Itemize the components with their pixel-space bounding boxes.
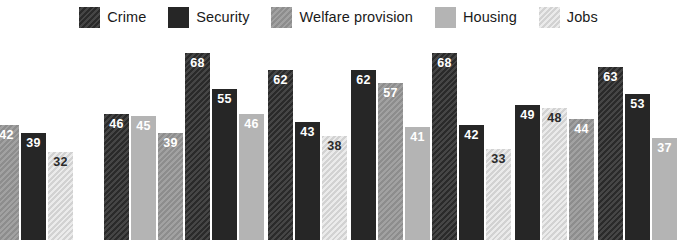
welfare-swatch [271, 7, 292, 28]
legend-label: Welfare provision [299, 9, 412, 25]
bar-group: 685546 [185, 34, 264, 240]
legend-item-jobs[interactable]: Jobs [539, 7, 598, 28]
bar[interactable]: 57 [378, 83, 403, 240]
crime-swatch [79, 7, 100, 28]
bar-group: 464539 [104, 34, 183, 240]
bar[interactable]: 63 [598, 67, 623, 240]
bar[interactable]: 42 [0, 125, 19, 240]
bar[interactable]: 48 [542, 108, 567, 240]
bar[interactable]: 33 [486, 149, 511, 240]
bar[interactable]: 42 [459, 125, 484, 240]
bar-value-label: 39 [158, 136, 183, 150]
bar-value-label: 49 [515, 108, 540, 122]
security-swatch [168, 7, 189, 28]
bar[interactable]: 37 [652, 138, 677, 240]
bar[interactable]: 41 [405, 127, 430, 240]
bar-value-label: 63 [598, 70, 623, 84]
legend-item-security[interactable]: Security [168, 7, 249, 28]
bar[interactable]: 46 [104, 114, 129, 240]
bar-value-label: 43 [295, 125, 320, 139]
bar[interactable]: 38 [322, 136, 347, 240]
bar-group: 624338 [268, 34, 347, 240]
bar-value-label: 55 [212, 92, 237, 106]
bar-value-label: 42 [459, 128, 484, 142]
legend-label: Jobs [567, 9, 598, 25]
legend-item-crime[interactable]: Crime [79, 7, 146, 28]
bar-chart: CrimeSecurityWelfare provisionHousingJob… [0, 0, 677, 240]
bar-group: 423932 [0, 34, 73, 240]
bar[interactable]: 46 [239, 114, 264, 240]
jobs-swatch [539, 7, 560, 28]
legend-label: Security [196, 9, 249, 25]
bar[interactable]: 68 [185, 53, 210, 240]
housing-swatch [435, 7, 456, 28]
bar-value-label: 45 [131, 119, 156, 133]
legend-item-welfare-provision[interactable]: Welfare provision [271, 7, 412, 28]
bar[interactable]: 45 [131, 116, 156, 240]
bar[interactable]: 49 [515, 105, 540, 240]
bar-group: 635337 [598, 34, 677, 240]
chart-legend: CrimeSecurityWelfare provisionHousingJob… [0, 0, 677, 34]
chart-plot-area: 4239324645396855466243386257416842334948… [0, 34, 677, 240]
bar[interactable]: 32 [48, 152, 73, 240]
bar-group: 625741 [351, 34, 430, 240]
bar-value-label: 38 [322, 139, 347, 153]
bar-group: 494844 [515, 34, 594, 240]
bar-value-label: 68 [185, 56, 210, 70]
bar-value-label: 62 [268, 73, 293, 87]
bar-value-label: 41 [405, 130, 430, 144]
bar-value-label: 33 [486, 152, 511, 166]
legend-item-housing[interactable]: Housing [435, 7, 517, 28]
bar[interactable]: 53 [625, 94, 650, 240]
bar[interactable]: 39 [158, 133, 183, 240]
bar-value-label: 46 [239, 117, 264, 131]
bar[interactable]: 43 [295, 122, 320, 240]
bar[interactable]: 68 [432, 53, 457, 240]
bar-value-label: 39 [21, 136, 46, 150]
bar[interactable]: 62 [351, 70, 376, 240]
bar-value-label: 37 [652, 141, 677, 155]
bar-value-label: 44 [569, 122, 594, 136]
bar[interactable]: 62 [268, 70, 293, 240]
bar-group: 684233 [432, 34, 511, 240]
bar-value-label: 46 [104, 117, 129, 131]
bar-value-label: 68 [432, 56, 457, 70]
bar-value-label: 48 [542, 111, 567, 125]
legend-label: Housing [463, 9, 517, 25]
bar-value-label: 62 [351, 73, 376, 87]
bar[interactable]: 44 [569, 119, 594, 240]
bar[interactable]: 55 [212, 89, 237, 240]
legend-label: Crime [107, 9, 146, 25]
bar[interactable]: 39 [21, 133, 46, 240]
bar-value-label: 32 [48, 155, 73, 169]
bar-value-label: 57 [378, 86, 403, 100]
bar-value-label: 42 [0, 128, 19, 142]
bar-value-label: 53 [625, 97, 650, 111]
